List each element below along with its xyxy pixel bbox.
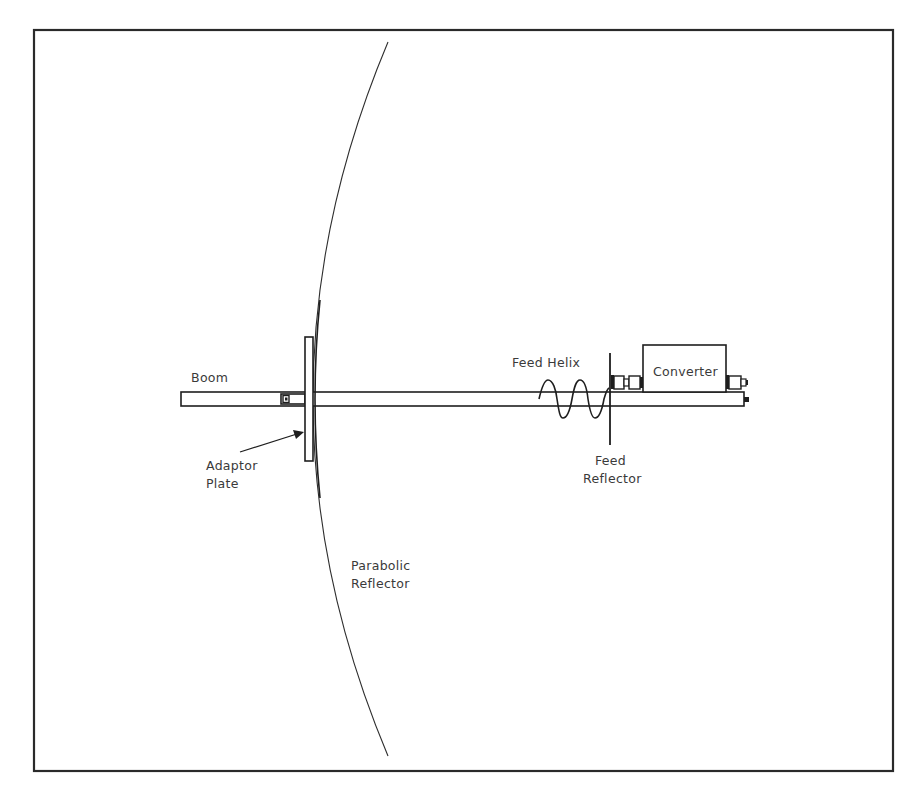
label-feed-reflector-line1: Feed (595, 453, 626, 468)
boom-bracket (281, 394, 305, 404)
converter-output-connector (726, 375, 748, 389)
feed-connector (614, 376, 643, 389)
label-converter: Converter (653, 364, 719, 379)
label-parabolic-reflector-line1: Parabolic (351, 558, 411, 573)
label-adaptor-plate-line1: Adaptor (206, 458, 258, 473)
label-boom: Boom (191, 370, 228, 385)
label-feed-reflector-line2: Reflector (583, 471, 642, 486)
boom (181, 392, 749, 406)
label-feed-helix: Feed Helix (512, 355, 580, 370)
adaptor-plate-arrow (240, 430, 304, 452)
adaptor-plate (305, 337, 313, 461)
label-adaptor-plate-line2: Plate (206, 476, 239, 491)
label-parabolic-reflector-line2: Reflector (351, 576, 410, 591)
antenna-diagram: Boom Adaptor Plate Parabolic Reflector F… (0, 0, 912, 789)
